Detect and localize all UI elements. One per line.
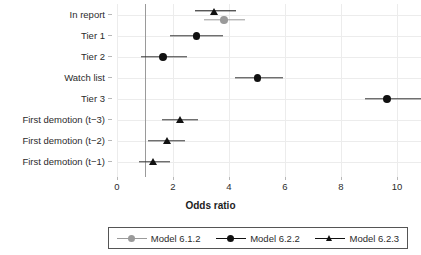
y-axis-tick bbox=[108, 35, 112, 36]
y-axis-label-tier-2: Tier 2 bbox=[81, 52, 105, 62]
y-axis-label-first-demotion-t2: First demotion (t−2) bbox=[22, 136, 105, 146]
legend-label-model-6-2-3: Model 6.2.3 bbox=[349, 233, 399, 244]
y-axis-tick bbox=[108, 119, 112, 120]
marker-circle-watch-list-m622 bbox=[254, 74, 262, 82]
gridline-vertical bbox=[285, 4, 286, 177]
y-axis-label-tier-3: Tier 3 bbox=[81, 94, 105, 104]
gridline-vertical bbox=[173, 4, 174, 177]
x-axis-title: Odds ratio bbox=[0, 200, 421, 211]
confidence-interval-tier-3-m622 bbox=[365, 98, 421, 99]
gridline-horizontal bbox=[117, 15, 421, 16]
y-axis-label-tier-1: Tier 1 bbox=[81, 31, 105, 41]
legend-label-model-6-2-2: Model 6.2.2 bbox=[250, 233, 300, 244]
x-axis-tick bbox=[117, 177, 118, 180]
y-axis-tick bbox=[108, 140, 112, 141]
legend-entry-model-6-1-2[interactable]: Model 6.1.2 bbox=[117, 232, 201, 244]
legend-key-triangle-black-icon bbox=[315, 232, 345, 244]
marker-triangle-first-demotion-t1-m623 bbox=[149, 158, 157, 165]
marker-circle-tier-2-m622 bbox=[159, 53, 167, 61]
x-axis-tick-label-6: 6 bbox=[282, 181, 287, 192]
legend: Model 6.1.2 Model 6.2.2 Model 6.2.3 bbox=[108, 227, 408, 249]
legend-entry-model-6-2-2[interactable]: Model 6.2.2 bbox=[216, 232, 300, 244]
y-axis-label-first-demotion-t3: First demotion (t−3) bbox=[22, 115, 105, 125]
legend-label-model-6-1-2: Model 6.1.2 bbox=[151, 233, 201, 244]
forest-plot-figure: In report Tier 1 Tier 2 Watch list Tier … bbox=[0, 0, 421, 255]
x-axis: 0 2 4 6 8 10 bbox=[117, 177, 421, 197]
marker-triangle-first-demotion-t3-m623 bbox=[176, 116, 184, 123]
marker-circle-tier-1-m622 bbox=[193, 32, 201, 40]
plot-area bbox=[117, 4, 421, 177]
legend-entry-model-6-2-3[interactable]: Model 6.2.3 bbox=[315, 232, 399, 244]
gridline-vertical bbox=[117, 4, 118, 177]
x-axis-tick bbox=[341, 177, 342, 180]
x-axis-tick-label-8: 8 bbox=[338, 181, 343, 192]
x-axis-tick-label-10: 10 bbox=[392, 181, 403, 192]
x-axis-tick-label-4: 4 bbox=[226, 181, 231, 192]
gridline-vertical bbox=[397, 4, 398, 177]
marker-circle-in-report-m612 bbox=[220, 16, 228, 24]
x-axis-tick bbox=[229, 177, 230, 180]
x-axis-tick bbox=[397, 177, 398, 180]
y-axis-tick bbox=[108, 56, 112, 57]
x-axis-tick-label-2: 2 bbox=[170, 181, 175, 192]
y-axis-tick bbox=[108, 77, 112, 78]
reference-line-or-1 bbox=[145, 4, 146, 177]
y-axis-tick bbox=[108, 98, 112, 99]
y-axis: In report Tier 1 Tier 2 Watch list Tier … bbox=[0, 4, 112, 177]
legend-key-circle-black-icon bbox=[216, 232, 246, 244]
legend-key-circle-gray-icon bbox=[117, 232, 147, 244]
marker-circle-tier-3-m622 bbox=[383, 95, 391, 103]
y-axis-label-first-demotion-t1: First demotion (t−1) bbox=[22, 157, 105, 167]
x-axis-tick bbox=[285, 177, 286, 180]
gridline-vertical bbox=[229, 4, 230, 177]
y-axis-tick bbox=[108, 161, 112, 162]
y-axis-label-in-report: In report bbox=[70, 10, 105, 20]
x-axis-tick-label-0: 0 bbox=[114, 181, 119, 192]
gridline-vertical bbox=[341, 4, 342, 177]
gridline-horizontal bbox=[117, 36, 421, 37]
marker-triangle-first-demotion-t2-m623 bbox=[163, 137, 171, 144]
y-axis-tick bbox=[108, 14, 112, 15]
x-axis-tick bbox=[173, 177, 174, 180]
y-axis-label-watch-list: Watch list bbox=[64, 73, 105, 83]
marker-triangle-in-report-m623 bbox=[210, 8, 218, 15]
